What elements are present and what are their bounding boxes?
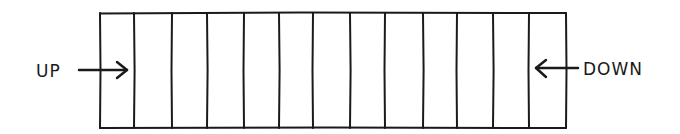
bar-top-edge: [100, 13, 566, 14]
cell-divider: [493, 13, 494, 128]
down-label: DOWN: [583, 59, 643, 79]
up-label: UP: [36, 61, 61, 81]
down-label-group: DOWN: [536, 59, 643, 79]
cell-divider: [244, 13, 245, 128]
cell-divider: [423, 13, 424, 128]
bar-outline: [100, 13, 567, 129]
cell-divider: [313, 13, 314, 128]
cell-divider: [279, 13, 280, 128]
cell-divider: [350, 13, 351, 128]
left-arrow-icon: [536, 60, 578, 77]
right-arrow-icon: [79, 62, 127, 78]
up-label-group: UP: [36, 61, 127, 81]
bar-bottom-edge: [100, 128, 566, 129]
segmented-bar-diagram: UP DOWN: [0, 0, 680, 134]
cell-divider: [134, 13, 135, 128]
cell-divider: [385, 13, 386, 128]
cell-divider: [529, 13, 530, 128]
bar-right-edge: [566, 13, 567, 128]
cell-divider: [172, 13, 173, 128]
cell-divider: [457, 13, 458, 128]
cell-divider: [207, 13, 208, 128]
cell-dividers: [134, 13, 529, 128]
